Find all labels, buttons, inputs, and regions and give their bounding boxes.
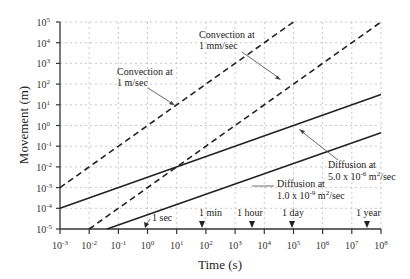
svg-text:100: 100 [141,239,155,251]
y-axis-title: Movement (m) [16,86,31,164]
svg-text:Convection at: Convection at [199,29,255,40]
svg-text:103: 103 [37,57,51,69]
time-marker-1-hour: 1 hour [237,207,264,228]
svg-text:102: 102 [37,78,51,90]
svg-text:10-5: 10-5 [36,223,52,235]
svg-text:105: 105 [287,239,301,251]
svg-text:Diffusion at: Diffusion at [277,178,325,189]
svg-text:1 min: 1 min [199,207,222,218]
svg-text:1 year: 1 year [356,207,381,218]
x-axis-title: Time (s) [198,257,242,272]
time-marker-1-min: 1 min [199,207,222,228]
x-ticks [60,229,381,234]
svg-text:107: 107 [345,239,359,251]
svg-text:10-2: 10-2 [81,239,97,251]
svg-text:10-2: 10-2 [36,161,52,173]
svg-text:Diffusion at: Diffusion at [328,159,376,170]
svg-text:105: 105 [37,16,51,28]
svg-text:10-4: 10-4 [36,202,52,214]
svg-text:102: 102 [199,239,213,251]
svg-text:108: 108 [374,239,388,251]
annotation-diffusion-5e-6: Diffusion at 5.0 x 10-6 m2/sec [299,129,396,182]
annotation-convection-1mm: Convection at 1 mm/sec [199,29,281,80]
svg-text:1 m/sec: 1 m/sec [117,77,148,88]
svg-text:100: 100 [37,120,51,132]
time-marker-1-year: 1 year [356,207,381,228]
svg-text:101: 101 [170,239,184,251]
svg-text:10-1: 10-1 [110,239,126,251]
svg-text:1 mm/sec: 1 mm/sec [199,40,238,51]
svg-text:106: 106 [316,239,330,251]
svg-text:1 day: 1 day [282,207,304,218]
svg-text:5.0 x 10-6 m2/sec: 5.0 x 10-6 m2/sec [328,170,396,182]
svg-text:Convection at: Convection at [117,66,173,77]
time-marker-1-day: 1 day [282,207,304,228]
svg-text:104: 104 [37,37,51,49]
svg-text:1 sec: 1 sec [152,212,173,223]
svg-text:10-1: 10-1 [36,140,52,152]
svg-text:101: 101 [37,99,51,111]
svg-text:10-3: 10-3 [52,239,68,251]
svg-text:103: 103 [228,239,242,251]
annotation-convection-1m: Convection at 1 m/sec [117,66,175,106]
x-tick-labels: 10-3 10-2 10-1 100 101 102 103 104 105 1… [52,239,388,251]
svg-text:1.0 x 10-9 m2/sec: 1.0 x 10-9 m2/sec [277,189,345,201]
svg-text:10-3: 10-3 [36,182,52,194]
svg-text:104: 104 [258,239,272,251]
diffusion-convection-chart: 105 104 103 102 101 100 10-1 10-2 10-3 1… [0,0,410,279]
y-tick-labels: 105 104 103 102 101 100 10-1 10-2 10-3 1… [36,16,52,235]
svg-text:1 hour: 1 hour [237,207,264,218]
